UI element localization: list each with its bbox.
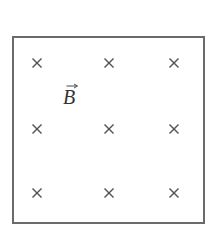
field-cross-icon [31,187,43,199]
field-cross-icon [168,57,180,69]
field-cross-icon [31,57,43,69]
field-cross-icon [31,123,43,135]
field-cross-icon [103,123,115,135]
field-label-b: B [63,83,79,109]
field-cross-icon [168,123,180,135]
field-cross-icon [168,187,180,199]
field-symbol: B [63,86,75,108]
field-cross-icon [103,57,115,69]
field-cross-icon [103,187,115,199]
